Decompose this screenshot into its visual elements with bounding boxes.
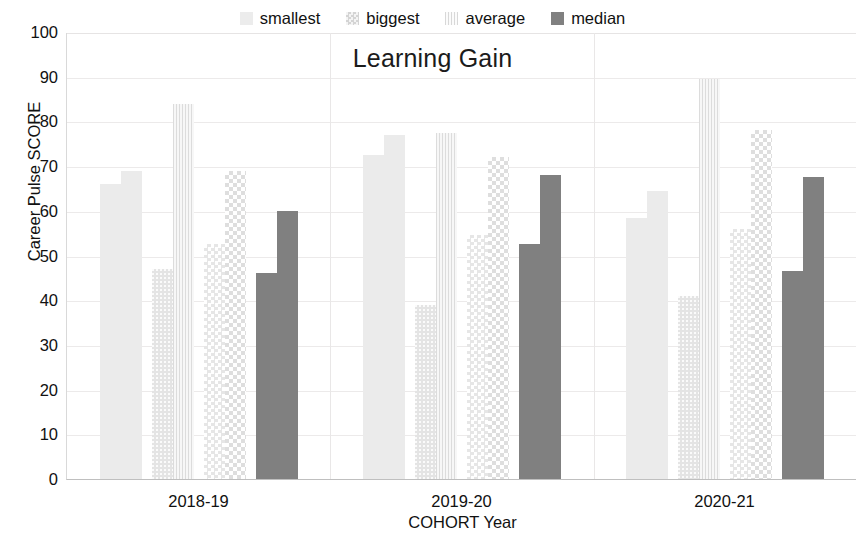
- series-average-2018-19: [204, 33, 246, 479]
- x-tick-label-2018-19: 2018-19: [67, 480, 330, 511]
- y-tick-label-70: 70: [40, 157, 58, 176]
- x-axis-title: COHORT Year: [60, 513, 865, 532]
- y-tick-label-80: 80: [40, 113, 58, 132]
- legend-label-smallest: smallest: [260, 10, 321, 27]
- legend-item-median[interactable]: median: [551, 10, 625, 27]
- bar-average-post-2020-21[interactable]: [751, 130, 772, 479]
- bar-biggest-pre-2018-19[interactable]: [152, 269, 173, 479]
- legend-label-average: average: [465, 10, 525, 27]
- bar-median-pre-2019-20[interactable]: [519, 244, 540, 479]
- bar-median-pre-2018-19[interactable]: [256, 273, 277, 479]
- x-tick-label-2019-20: 2019-20: [330, 480, 593, 511]
- bar-group-2018-19: 2018-19: [67, 33, 330, 479]
- bar-average-post-2018-19[interactable]: [225, 171, 246, 479]
- bar-median-post-2020-21[interactable]: [803, 177, 824, 479]
- bar-smallest-pre-2019-20[interactable]: [363, 155, 384, 479]
- bar-biggest-post-2018-19[interactable]: [173, 104, 194, 479]
- legend-label-median: median: [571, 10, 625, 27]
- group-separator-2: [594, 33, 595, 479]
- bar-median-pre-2020-21[interactable]: [782, 271, 803, 479]
- y-tick-label-60: 60: [40, 202, 58, 221]
- bar-median-post-2019-20[interactable]: [540, 175, 561, 479]
- y-tick-label-50: 50: [40, 247, 58, 266]
- y-tick-label-20: 20: [40, 381, 58, 400]
- bar-biggest-pre-2020-21[interactable]: [678, 296, 699, 479]
- legend-swatch-smallest: [240, 12, 253, 25]
- bar-average-pre-2018-19[interactable]: [204, 244, 225, 479]
- bar-group-2020-21: 2020-21: [593, 33, 856, 479]
- bar-smallest-pre-2020-21[interactable]: [626, 218, 647, 479]
- y-tick-label-10: 10: [40, 425, 58, 444]
- bar-smallest-post-2018-19[interactable]: [121, 171, 142, 479]
- series-median-2019-20: [519, 33, 561, 479]
- bar-smallest-post-2019-20[interactable]: [384, 135, 405, 479]
- legend-swatch-average: [445, 12, 458, 25]
- bar-smallest-post-2020-21[interactable]: [647, 191, 668, 479]
- group-separator-1: [330, 33, 331, 479]
- series-biggest-2018-19: [152, 33, 194, 479]
- legend-item-smallest[interactable]: smallest: [240, 10, 321, 27]
- series-average-2019-20: [467, 33, 509, 479]
- series-median-2018-19: [256, 33, 298, 479]
- series-biggest-2020-21: [678, 33, 720, 479]
- bar-average-post-2019-20[interactable]: [488, 157, 509, 479]
- series-average-2020-21: [730, 33, 772, 479]
- x-tick-label-2020-21: 2020-21: [593, 480, 856, 511]
- learning-gain-chart: smallest biggest average median Learning…: [0, 0, 865, 537]
- bar-group-2019-20: 2019-20: [330, 33, 593, 479]
- legend-item-average[interactable]: average: [445, 10, 525, 27]
- bar-average-pre-2019-20[interactable]: [467, 235, 488, 479]
- y-tick-label-100: 100: [30, 23, 58, 42]
- bar-smallest-pre-2018-19[interactable]: [100, 184, 121, 479]
- y-tick-label-40: 40: [40, 291, 58, 310]
- bar-average-pre-2020-21[interactable]: [730, 229, 751, 479]
- y-tick-label-30: 30: [40, 336, 58, 355]
- bar-median-post-2018-19[interactable]: [277, 211, 298, 479]
- series-biggest-2019-20: [415, 33, 457, 479]
- legend-swatch-median: [551, 12, 564, 25]
- bar-biggest-pre-2019-20[interactable]: [415, 305, 436, 479]
- series-smallest-2020-21: [626, 33, 668, 479]
- series-median-2020-21: [782, 33, 824, 479]
- plot-area: 0102030405060708090100 2018-192019-20202…: [66, 33, 856, 480]
- bar-biggest-post-2020-21[interactable]: [699, 79, 720, 479]
- y-axis-title: Career Pulse SCORE: [25, 52, 44, 312]
- legend-label-biggest: biggest: [366, 10, 419, 27]
- legend-item-biggest[interactable]: biggest: [346, 10, 419, 27]
- legend-swatch-biggest: [346, 12, 359, 25]
- series-smallest-2019-20: [363, 33, 405, 479]
- chart-legend: smallest biggest average median: [0, 10, 865, 27]
- series-smallest-2018-19: [100, 33, 142, 479]
- bar-groups: 2018-192019-202020-21: [67, 33, 856, 479]
- bar-biggest-post-2019-20[interactable]: [436, 133, 457, 479]
- y-tick-label-90: 90: [40, 68, 58, 87]
- y-tick-label-0: 0: [49, 470, 58, 489]
